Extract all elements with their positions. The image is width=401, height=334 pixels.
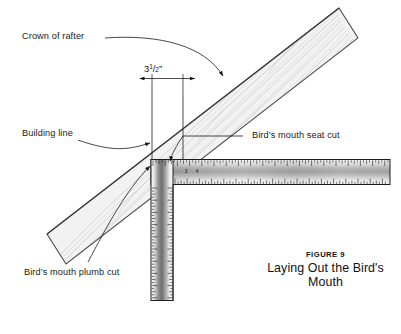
label-birds-mouth-seat-cut: Bird’s mouth seat cut [252, 130, 340, 140]
dimension-label: 31/2” [144, 63, 162, 74]
label-building-line: Building line [22, 128, 73, 138]
label-crown-of-rafter: Crown of rafter [22, 31, 84, 41]
leader-crown-of-rafter [105, 37, 223, 76]
dimension-unit: ” [159, 63, 162, 74]
figure-caption-block: FIGURE 9 Laying Out the Bird's Mouth [250, 250, 401, 289]
figure-number: FIGURE 9 [250, 250, 401, 259]
rafter-board [47, 3, 358, 289]
blade-numeral-3: 3 [185, 169, 188, 174]
blade-numeral-4: 4 [196, 169, 199, 174]
figure-canvas: 3 4 Crown of rafter Building line Bird’s… [0, 0, 401, 334]
figure-title: Laying Out the Bird's Mouth [250, 261, 401, 289]
dimension-3-1-2-inch [140, 74, 195, 96]
label-birds-mouth-plumb-cut: Bird’s mouth plumb cut [24, 267, 119, 277]
leader-building-line [78, 140, 150, 149]
